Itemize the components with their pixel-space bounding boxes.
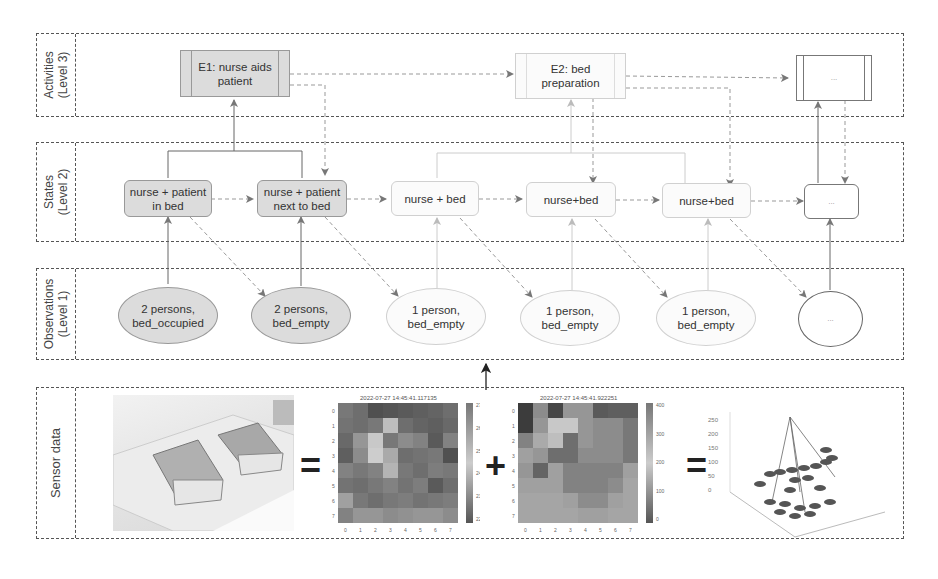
y-tick: 0 bbox=[512, 408, 515, 414]
heatmap-cell bbox=[398, 418, 413, 433]
colorbar-tick: 27 bbox=[476, 402, 480, 408]
heatmap-cell bbox=[368, 418, 383, 433]
heatmap-cell bbox=[368, 403, 383, 418]
heatmap-cell bbox=[563, 448, 578, 463]
heatmap-cell bbox=[578, 418, 593, 433]
heatmap-cell bbox=[518, 478, 533, 493]
point-cloud-point bbox=[779, 501, 791, 507]
point-cloud-point bbox=[810, 463, 822, 469]
heatmap-cell bbox=[593, 403, 608, 418]
heatmap-cell bbox=[548, 478, 563, 493]
point-cloud-point bbox=[754, 481, 766, 487]
heatmap-cell bbox=[368, 448, 383, 463]
edge-e1-state2 bbox=[290, 85, 325, 175]
observation-1-label: 2 persons, bed_occupied bbox=[132, 302, 204, 330]
z-tick: 200 bbox=[708, 431, 719, 437]
heatmap-cell bbox=[398, 478, 413, 493]
z-tick: 50 bbox=[708, 473, 715, 479]
heatmap-cell bbox=[548, 433, 563, 448]
state-2[interactable]: nurse + patient next to bed bbox=[257, 180, 347, 217]
equals-operator-1: = bbox=[300, 445, 321, 487]
room-render-image bbox=[113, 395, 294, 531]
heatmap-cell bbox=[398, 508, 413, 523]
z-tick: 0 bbox=[708, 487, 712, 493]
edge-e2-next bbox=[626, 76, 788, 78]
x-tick: 5 bbox=[599, 527, 602, 533]
observation-1[interactable]: 2 persons, bed_occupied bbox=[118, 287, 218, 344]
observation-5[interactable]: 1 person, bed_empty bbox=[656, 290, 756, 346]
state-1[interactable]: nurse + patient in bed bbox=[124, 180, 212, 217]
heatmap-cell bbox=[383, 433, 398, 448]
colorbar-tick: 23 bbox=[476, 493, 480, 499]
point-cloud-point bbox=[809, 503, 821, 509]
point-cloud-point bbox=[789, 513, 801, 519]
heatmap-cell bbox=[443, 463, 458, 478]
state-5[interactable]: nurse+bed bbox=[662, 183, 751, 218]
point-cloud-point bbox=[794, 505, 806, 511]
heatmap-cell bbox=[608, 448, 623, 463]
observation-3[interactable]: 1 person, bed_empty bbox=[386, 288, 486, 345]
state-3-label: nurse + bed bbox=[404, 192, 465, 206]
point-cloud-point bbox=[820, 447, 832, 453]
heatmap-cell bbox=[563, 493, 578, 508]
x-tick: 2 bbox=[554, 527, 557, 533]
point-cloud-point bbox=[789, 477, 801, 483]
heatmap-cell bbox=[593, 508, 608, 523]
heatmap-cell bbox=[383, 448, 398, 463]
heatmap-cell bbox=[563, 403, 578, 418]
heatmap-cell bbox=[533, 448, 548, 463]
heatmap-cell bbox=[593, 478, 608, 493]
heatmap-cell bbox=[623, 433, 638, 448]
activity-next[interactable]: ... bbox=[796, 55, 872, 101]
observation-next[interactable]: ... bbox=[798, 291, 863, 347]
heatmap-cell bbox=[338, 463, 353, 478]
heatmap-cell bbox=[368, 433, 383, 448]
point-cloud-3d-plot: 250200150100500 bbox=[700, 392, 900, 542]
room-render-illustration bbox=[113, 395, 294, 531]
colorbar-tick: 200 bbox=[656, 459, 665, 465]
x-tick: 1 bbox=[539, 527, 542, 533]
heatmap-cell bbox=[443, 418, 458, 433]
heatmap1-grid: 0123456701234567272625242322 bbox=[320, 390, 480, 550]
heatmap-cell bbox=[533, 433, 548, 448]
heatmap-cell bbox=[353, 418, 368, 433]
observation-4[interactable]: 1 person, bed_empty bbox=[520, 290, 620, 346]
frustum-line bbox=[790, 417, 805, 512]
heatmap-cell bbox=[518, 493, 533, 508]
state-5-label: nurse+bed bbox=[679, 194, 734, 208]
heatmap-cell bbox=[578, 448, 593, 463]
point-cloud-point bbox=[804, 511, 816, 517]
state-2-label: nurse + patient next to bed bbox=[264, 185, 340, 213]
heatmap-cell bbox=[428, 508, 443, 523]
x-tick: 2 bbox=[374, 527, 377, 533]
heatmap-cell bbox=[518, 508, 533, 523]
state-next[interactable]: ... bbox=[804, 184, 859, 219]
heatmap-cell bbox=[548, 508, 563, 523]
heatmap-cell bbox=[368, 463, 383, 478]
heatmap-cell bbox=[428, 448, 443, 463]
heatmap-cell bbox=[533, 493, 548, 508]
heatmap-cell bbox=[608, 403, 623, 418]
heatmap-cell bbox=[428, 403, 443, 418]
heatmap-cell bbox=[578, 493, 593, 508]
heatmap-cell bbox=[548, 493, 563, 508]
observation-next-label: ... bbox=[827, 312, 834, 326]
heatmap-cell bbox=[548, 448, 563, 463]
heatmap-cell bbox=[578, 433, 593, 448]
heatmap-cell bbox=[578, 403, 593, 418]
heatmap-cell bbox=[548, 418, 563, 433]
heatmap-cell bbox=[563, 478, 578, 493]
state-4[interactable]: nurse+bed bbox=[526, 182, 616, 217]
heatmap-cell bbox=[398, 403, 413, 418]
state-3[interactable]: nurse + bed bbox=[391, 181, 479, 216]
heatmap-cell bbox=[518, 448, 533, 463]
heatmap-cell bbox=[338, 508, 353, 523]
heatmap2-grid: 01234567012345674003002001000 bbox=[500, 390, 670, 550]
thermal-heatmap: 2022-07-27 14:45:41.117135 0123456701234… bbox=[320, 390, 480, 550]
heatmap-cell bbox=[608, 493, 623, 508]
activity-e1[interactable]: E1: nurse aids patient bbox=[180, 50, 290, 97]
x-tick: 0 bbox=[524, 527, 527, 533]
heatmap-cell bbox=[338, 448, 353, 463]
activity-e2[interactable]: E2: bed preparation bbox=[515, 53, 626, 99]
observation-2[interactable]: 2 persons, bed_empty bbox=[251, 287, 351, 344]
